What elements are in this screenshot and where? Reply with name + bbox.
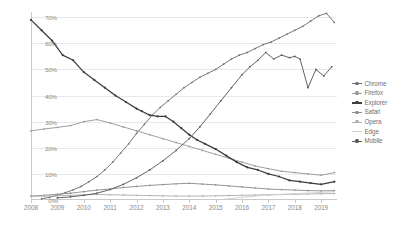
data-point — [149, 134, 151, 136]
data-point — [307, 190, 309, 192]
data-point — [114, 94, 116, 96]
data-point — [320, 193, 322, 195]
data-point — [135, 108, 137, 110]
x-axis-tick-mark — [268, 200, 269, 203]
data-point — [104, 169, 106, 171]
series-line — [42, 13, 335, 198]
x-axis-tick-mark — [189, 200, 190, 203]
series-line — [31, 20, 334, 185]
data-point — [236, 161, 238, 163]
data-point — [307, 87, 309, 89]
data-point — [199, 76, 201, 78]
legend-item-explorer[interactable]: Explorer — [352, 98, 401, 108]
data-point — [136, 130, 138, 132]
series-line — [31, 120, 334, 176]
data-point — [72, 59, 74, 61]
data-point — [175, 93, 177, 95]
series-mobile — [57, 52, 333, 199]
data-point — [83, 121, 85, 123]
data-point — [318, 15, 320, 17]
x-axis-tick-mark — [110, 200, 111, 203]
data-point — [175, 142, 177, 144]
data-point — [30, 19, 32, 21]
data-point — [267, 173, 269, 175]
data-point — [149, 185, 151, 187]
data-point — [149, 114, 151, 116]
legend-item-opera[interactable]: Opera — [352, 117, 401, 127]
data-point — [320, 174, 322, 176]
data-point — [334, 172, 336, 174]
data-point — [83, 194, 85, 196]
data-point — [62, 54, 64, 56]
data-point — [265, 52, 267, 54]
series-lines — [31, 12, 337, 200]
data-point — [323, 75, 325, 77]
data-point — [49, 197, 51, 199]
data-point — [159, 106, 161, 108]
data-point — [281, 54, 283, 56]
data-point — [254, 187, 256, 189]
data-point — [231, 58, 233, 60]
data-point — [202, 183, 204, 185]
data-point — [175, 183, 177, 185]
legend-item-chrome[interactable]: Chrome — [352, 79, 401, 89]
legend-marker-icon — [352, 138, 362, 145]
legend-item-label: Mobile — [365, 138, 383, 144]
legend-item-safari[interactable]: Safari — [352, 108, 401, 118]
legend-item-edge[interactable]: Edge — [352, 127, 401, 137]
data-point — [333, 181, 335, 183]
data-point — [268, 168, 270, 170]
data-point — [231, 87, 233, 89]
series-chrome — [41, 12, 336, 199]
data-point — [294, 56, 296, 58]
legend-item-label: Explorer — [365, 100, 388, 106]
data-point — [289, 57, 291, 59]
series-explorer — [30, 19, 336, 186]
legend-item-label: Edge — [365, 129, 379, 135]
legend-item-label: Firefox — [365, 90, 384, 96]
data-point — [334, 22, 336, 24]
data-point — [302, 26, 304, 28]
legend-marker-icon — [352, 109, 362, 116]
data-point — [141, 110, 143, 112]
data-point — [72, 189, 74, 191]
data-point — [188, 146, 190, 148]
data-point — [294, 189, 296, 191]
data-point — [162, 184, 164, 186]
data-point — [246, 166, 248, 168]
data-point — [157, 115, 159, 117]
data-point — [257, 59, 259, 61]
data-point — [326, 12, 328, 14]
data-point — [30, 195, 32, 197]
data-point — [320, 190, 322, 192]
data-point — [109, 122, 111, 124]
legend-item-firefox[interactable]: Firefox — [352, 89, 401, 99]
data-point — [210, 113, 212, 115]
data-point — [268, 188, 270, 190]
data-point — [220, 100, 222, 102]
data-point — [57, 193, 59, 195]
data-point — [136, 177, 138, 179]
data-point — [83, 71, 85, 73]
data-point — [122, 183, 124, 185]
data-point — [228, 195, 230, 197]
x-axis-tick-label: 2008 — [24, 204, 38, 211]
data-point — [180, 127, 182, 129]
x-axis-tick-label: 2018 — [288, 204, 302, 211]
data-point — [104, 87, 106, 89]
data-point — [40, 29, 42, 31]
x-axis-tick-mark — [163, 200, 164, 203]
data-point — [215, 184, 217, 186]
data-point — [228, 185, 230, 187]
data-point — [239, 54, 241, 56]
data-point — [299, 181, 301, 183]
x-axis-tick-label: 2016 — [235, 204, 249, 211]
data-point — [136, 133, 138, 135]
data-point — [204, 143, 206, 145]
data-point — [80, 186, 82, 188]
legend-item-mobile[interactable]: Mobile — [352, 137, 401, 147]
chart-container: 0%10%20%30%40%50%60%70% 2008200920102011… — [0, 0, 401, 236]
data-point — [51, 40, 53, 42]
data-point — [307, 173, 309, 175]
data-point — [331, 66, 333, 68]
